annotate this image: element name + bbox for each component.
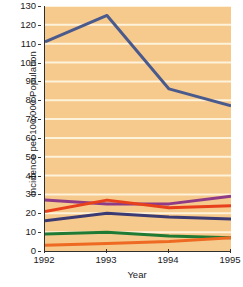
y-tick-label: 50 bbox=[0, 152, 36, 162]
y-tick-mark bbox=[38, 138, 41, 139]
y-axis-tick-labels: 0102030405060708090100110120130 bbox=[0, 0, 41, 287]
x-tick-mark bbox=[44, 249, 45, 253]
y-tick-label: 110 bbox=[0, 39, 36, 49]
y-tick-label: 90 bbox=[0, 77, 36, 87]
y-tick-label: 30 bbox=[0, 190, 36, 200]
x-tick-mark bbox=[168, 249, 169, 253]
y-tick-mark bbox=[38, 25, 41, 26]
y-tick-mark bbox=[38, 213, 41, 214]
y-tick-mark bbox=[38, 63, 41, 64]
y-tick-label: 120 bbox=[0, 20, 36, 30]
x-tick-label: 1992 bbox=[22, 254, 66, 265]
x-tick-label: 1995 bbox=[208, 254, 243, 265]
x-tick-mark bbox=[230, 249, 231, 253]
y-tick-label: 70 bbox=[0, 114, 36, 124]
y-tick-label: 100 bbox=[0, 58, 36, 68]
y-tick-mark bbox=[38, 194, 41, 195]
y-tick-label: 60 bbox=[0, 133, 36, 143]
x-tick-label: 1993 bbox=[84, 254, 128, 265]
y-tick-mark bbox=[38, 81, 41, 82]
y-tick-mark bbox=[38, 176, 41, 177]
y-tick-mark bbox=[38, 6, 41, 7]
y-tick-mark bbox=[38, 157, 41, 158]
y-tick-label: 130 bbox=[0, 1, 36, 11]
y-tick-mark bbox=[38, 119, 41, 120]
y-tick-label: 20 bbox=[0, 209, 36, 219]
y-tick-mark bbox=[38, 251, 41, 252]
y-tick-label: 80 bbox=[0, 95, 36, 105]
chart-figure: Incidence per 100,000 Population 0102030… bbox=[0, 0, 243, 287]
x-tick-label: 1994 bbox=[146, 254, 190, 265]
y-tick-label: 10 bbox=[0, 227, 36, 237]
y-tick-mark bbox=[38, 100, 41, 101]
y-tick-mark bbox=[38, 44, 41, 45]
series-line-series-4 bbox=[45, 213, 231, 221]
y-tick-label: 40 bbox=[0, 171, 36, 181]
plot-area bbox=[44, 6, 231, 252]
series-line-series-6 bbox=[45, 238, 231, 246]
x-axis-title: Year bbox=[44, 269, 230, 280]
y-tick-mark bbox=[38, 232, 41, 233]
series-lines bbox=[45, 6, 231, 251]
x-tick-mark bbox=[106, 249, 107, 253]
series-line-series-1 bbox=[45, 15, 231, 105]
